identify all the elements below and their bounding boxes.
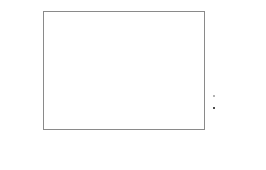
x-axis-ticks [43, 130, 205, 144]
legend-item-censored [211, 102, 266, 114]
censored-marker-icon [211, 103, 219, 113]
scatter-plot-figure [0, 0, 266, 170]
plot-area [43, 11, 205, 130]
y-axis-ticks [0, 11, 41, 130]
legend-item-died [211, 90, 266, 102]
legend [211, 88, 266, 114]
died-marker-icon [211, 91, 219, 101]
data-points-layer [44, 12, 204, 129]
